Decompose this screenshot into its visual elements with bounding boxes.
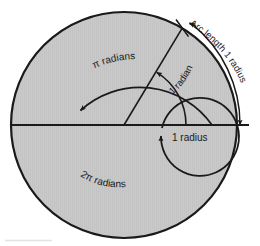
one-radius-label: 1 radius <box>172 132 208 143</box>
diagram-canvas: Arc length 1 radius 1 radian π radians 2… <box>0 0 260 246</box>
radian-circle-diagram: Arc length 1 radius 1 radian π radians 2… <box>0 0 260 246</box>
one-radius-label-text: 1 radius <box>172 132 208 143</box>
